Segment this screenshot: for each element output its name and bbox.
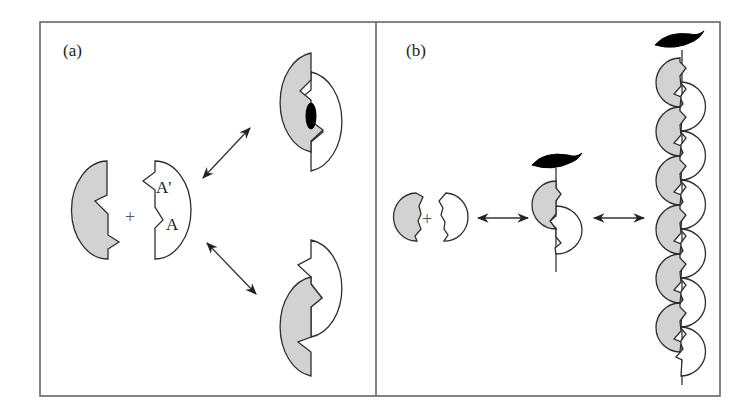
bidirectional-arrow-down [207, 243, 256, 294]
bound-ligand-icon [306, 103, 316, 129]
panel-b-label: (b) [406, 41, 426, 60]
panel-a-label: (a) [63, 41, 82, 60]
outer-frame [40, 22, 720, 396]
site-label-a-prime: A' [156, 178, 171, 197]
figure-frame [40, 22, 720, 396]
open-staggered-dimer [280, 240, 342, 376]
panel-a: (a) + A' A [63, 41, 342, 376]
filament-cap-ligand-icon [655, 31, 704, 47]
filament [655, 31, 706, 385]
figure: (a) + A' A (b) + [0, 0, 753, 411]
white-subunit-b [439, 193, 468, 241]
panel-b: (b) + [393, 31, 705, 385]
site-label-a: A [166, 215, 179, 234]
plus-operator-a: + [125, 207, 135, 227]
capped-dimer [532, 153, 582, 272]
closed-dimer-with-ligand [280, 53, 342, 171]
grey-subunit-b [393, 193, 423, 241]
grey-subunit [71, 161, 119, 259]
white-subunit [143, 161, 191, 259]
plus-operator-b: + [422, 209, 432, 229]
bidirectional-arrow-up [203, 128, 250, 178]
cap-ligand-icon [532, 153, 582, 168]
